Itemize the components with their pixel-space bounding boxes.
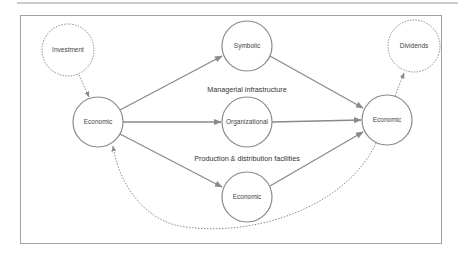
edge-symbolic-to-economic-right	[270, 56, 363, 108]
node-label: Economic	[373, 116, 402, 123]
node-dividends: Dividends	[388, 20, 440, 72]
node-economic-bottom: Economic	[222, 172, 272, 222]
edge-organizational-to-economic-right	[272, 120, 361, 122]
node-economic-left: Economic	[73, 97, 123, 147]
node-economic-right: Economic	[362, 95, 412, 145]
node-symbolic: Symbolic	[222, 21, 272, 71]
node-label: Investment	[52, 46, 84, 53]
node-investment: Investment	[42, 24, 94, 76]
node-label: Dividends	[400, 42, 429, 49]
node-label: Organizational	[226, 118, 268, 126]
edge-economic-right-to-dividends	[395, 73, 404, 96]
edge-investment-to-economic	[79, 75, 89, 97]
edge-economic-to-symbolic	[120, 56, 222, 110]
node-label: Economic	[233, 193, 262, 200]
node-organizational: Organizational	[222, 97, 272, 147]
section-label-production: Production & distribution facilities	[194, 154, 300, 163]
section-label-managerial: Managerial infrastructure	[207, 85, 287, 94]
node-label: Economic	[84, 118, 113, 125]
node-label: Symbolic	[234, 42, 261, 50]
diagram-canvas: Investment Economic Symbolic Organizatio…	[0, 0, 474, 256]
